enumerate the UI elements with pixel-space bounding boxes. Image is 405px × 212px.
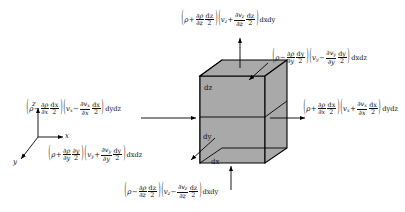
rho-step-fraction: dz2 bbox=[148, 185, 157, 199]
fluid-element-figure: z x y dz dy dx (ρ+∂ρ∂zdz2)(vz+∂vz∂zdz2)d… bbox=[0, 0, 405, 212]
rho-symbol: ρ bbox=[275, 54, 279, 62]
paren-close-2: ) bbox=[123, 146, 125, 164]
paren-open-2: ( bbox=[63, 100, 65, 118]
paren-open-2: ( bbox=[161, 183, 163, 201]
v-step-fraction: dz2 bbox=[189, 185, 198, 199]
rho-sign: + bbox=[56, 151, 62, 159]
v-partial-fraction: ∂vx∂x bbox=[80, 101, 91, 117]
rho-step-fraction: dx2 bbox=[327, 102, 336, 116]
v-step-fraction: dy2 bbox=[338, 51, 347, 65]
v-sign: + bbox=[350, 105, 356, 113]
rho-step-fraction: dx2 bbox=[50, 102, 59, 116]
flux-expression-right-positive-x: (ρ+∂ρ∂xdx2)(vx+∂vx∂xdx2)dydz bbox=[303, 101, 398, 117]
axis-label-y: y bbox=[13, 158, 17, 166]
rho-symbol: ρ bbox=[127, 188, 131, 196]
paren-close-2: ) bbox=[348, 49, 350, 67]
v-partial-fraction: ∂vy∂y bbox=[101, 147, 112, 163]
paren-close: ) bbox=[337, 100, 339, 118]
v-sign: − bbox=[171, 188, 177, 196]
paren-open-2: ( bbox=[85, 146, 87, 164]
paren-close: ) bbox=[60, 100, 62, 118]
paren-close-2: ) bbox=[102, 100, 104, 118]
rho-symbol: ρ bbox=[51, 151, 55, 159]
v-partial-fraction: ∂vy∂y bbox=[326, 50, 337, 66]
flux-expression-top-positive-z: (ρ+∂ρ∂zdz2)(vz+∂vz∂zdz2)dxdy bbox=[181, 12, 275, 28]
v-sign: − bbox=[319, 54, 325, 62]
axis-y bbox=[21, 137, 38, 159]
paren-open: ( bbox=[273, 49, 275, 67]
paren-open: ( bbox=[27, 100, 29, 118]
paren-open-2: ( bbox=[218, 11, 220, 29]
v-partial-fraction: ∂vz∂z bbox=[177, 184, 188, 200]
paren-open-2: ( bbox=[340, 100, 342, 118]
flux-area-term: dxdy bbox=[202, 188, 218, 196]
rho-sign: + bbox=[311, 105, 317, 113]
v-partial-fraction: ∂vx∂x bbox=[357, 101, 368, 117]
paren-close-2: ) bbox=[256, 11, 258, 29]
flux-area-term: dxdy bbox=[259, 16, 275, 24]
rho-step-fraction: dz2 bbox=[205, 13, 214, 27]
flux-area-term: dydz bbox=[382, 105, 398, 113]
axis-label-x: x bbox=[65, 132, 69, 140]
rho-partial-fraction: ∂ρ∂z bbox=[139, 185, 147, 199]
paren-close: ) bbox=[306, 49, 308, 67]
paren-open: ( bbox=[304, 100, 306, 118]
paren-close-2: ) bbox=[379, 100, 381, 118]
v-sign: + bbox=[228, 16, 234, 24]
rho-sign: − bbox=[34, 105, 40, 113]
rho-partial-fraction: ∂ρ∂y bbox=[287, 51, 295, 65]
flux-expression-bottom-negative-z: (ρ−∂ρ∂zdz2)(vz−∂vz∂zdz2)dxdy bbox=[124, 184, 218, 200]
rho-partial-fraction: ∂ρ∂y bbox=[63, 148, 71, 162]
flux-area-term: dxdz bbox=[126, 151, 142, 159]
cube-label-dy: dy bbox=[203, 133, 211, 141]
v-sign: + bbox=[94, 151, 100, 159]
rho-step-fraction: dy2 bbox=[296, 51, 305, 65]
flux-expression-back-negative-y: (ρ−∂ρ∂ydy2)(vy−∂vy∂ydy2)dxdz bbox=[272, 50, 367, 66]
rho-sign: − bbox=[280, 54, 286, 62]
rho-partial-fraction: ∂ρ∂z bbox=[196, 13, 204, 27]
rho-partial-fraction: ∂ρ∂x bbox=[41, 102, 49, 116]
paren-open: ( bbox=[49, 146, 51, 164]
v-step-fraction: dy2 bbox=[113, 148, 122, 162]
v-subscript: z bbox=[168, 191, 170, 196]
flux-expression-front-positive-y: (ρ+∂ρ∂y∂y2)(vy+∂vy∂ydy2)dxdz bbox=[48, 147, 142, 163]
rho-partial-fraction: ∂ρ∂x bbox=[318, 102, 326, 116]
paren-close: ) bbox=[81, 146, 83, 164]
rho-symbol: ρ bbox=[306, 105, 310, 113]
flux-area-term: dxdz bbox=[351, 54, 367, 62]
v-partial-fraction: ∂vz∂z bbox=[234, 12, 245, 28]
cube-label-dx: dx bbox=[211, 158, 219, 166]
rho-step-fraction: ∂y2 bbox=[72, 148, 80, 162]
paren-close: ) bbox=[158, 183, 160, 201]
v-sign: − bbox=[73, 105, 79, 113]
rho-symbol: ρ bbox=[29, 105, 33, 113]
flux-area-term: dydz bbox=[105, 105, 121, 113]
paren-close-2: ) bbox=[199, 183, 201, 201]
paren-open: ( bbox=[182, 11, 184, 29]
v-step-fraction: dx2 bbox=[92, 102, 101, 116]
cube-label-dz: dz bbox=[204, 84, 212, 92]
paren-open-2: ( bbox=[309, 49, 311, 67]
v-step-fraction: dz2 bbox=[246, 13, 255, 27]
rho-sign: + bbox=[189, 16, 195, 24]
v-subscript: z bbox=[225, 19, 227, 24]
fluid-element-cube bbox=[200, 60, 287, 163]
rho-symbol: ρ bbox=[184, 16, 188, 24]
flux-expression-left-negative-x: (ρ−∂ρ∂xdx2)(vx−∂vx∂xdx2)dydz bbox=[26, 101, 121, 117]
v-step-fraction: dx2 bbox=[369, 102, 378, 116]
paren-close: ) bbox=[215, 11, 217, 29]
rho-sign: − bbox=[132, 188, 138, 196]
paren-open: ( bbox=[125, 183, 127, 201]
